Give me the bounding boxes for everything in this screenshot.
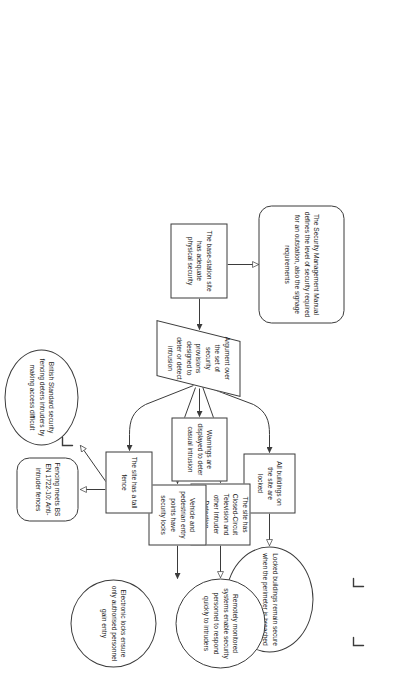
- undeveloped-marker-sn1: [353, 578, 363, 586]
- diagram-rotated-layer: The Security Management Manual defines t…: [0, 0, 396, 675]
- node-goal-warnings-displayed[interactable]: Warnings are displayed to deter casual i…: [171, 417, 227, 481]
- node-text: All buildings on the site are locked: [255, 458, 284, 508]
- node-text: The base-station site has adequate physi…: [184, 228, 213, 293]
- node-solution-remote-monitoring[interactable]: Remotely monitored systems enable securi…: [175, 578, 265, 668]
- node-text: Vehicle and pedestrian entry points have…: [158, 489, 196, 540]
- node-context-bs-en-1722-10[interactable]: Fencing meets BS EN 1722-10: Anti-intrud…: [16, 457, 78, 521]
- node-text: Fencing meets BS EN 1722-10: Anti-intrud…: [33, 462, 62, 516]
- node-text: The site has a tall fence: [119, 456, 138, 508]
- node-context-security-management-manual[interactable]: The Security Management Manual defines t…: [258, 205, 344, 323]
- node-text: The Security Management Manual defines t…: [282, 210, 320, 318]
- node-solution-bs-fencing[interactable]: British Standard security fencing deters…: [4, 349, 78, 445]
- node-text: Argument over the set of security provis…: [165, 335, 232, 381]
- node-text: Electronic locks ensure only authorised …: [99, 584, 128, 662]
- node-goal-buildings-locked[interactable]: All buildings on the site are locked: [243, 453, 295, 513]
- node-solution-electronic-locks[interactable]: Electronic locks ensure only authorised …: [70, 579, 156, 667]
- node-text: British Standard security fencing deters…: [27, 354, 56, 440]
- node-text: Remotely monitored systems enable securi…: [201, 583, 239, 663]
- edge-g6-sn4: [80, 445, 106, 482]
- node-text: Warnings are displayed to deter casual i…: [185, 422, 214, 476]
- undeveloped-marker-sn4: [62, 437, 72, 445]
- node-goal-tall-fence[interactable]: The site has a tall fence: [105, 451, 152, 513]
- diagram-canvas: The Security Management Manual defines t…: [0, 0, 396, 675]
- node-goal-base-station-physical-security[interactable]: The base-station site has adequate physi…: [170, 223, 227, 298]
- undeveloped-marker-sn2: [353, 637, 363, 645]
- node-goal-entry-point-locks[interactable]: Vehicle and pedestrian entry points have…: [148, 484, 206, 545]
